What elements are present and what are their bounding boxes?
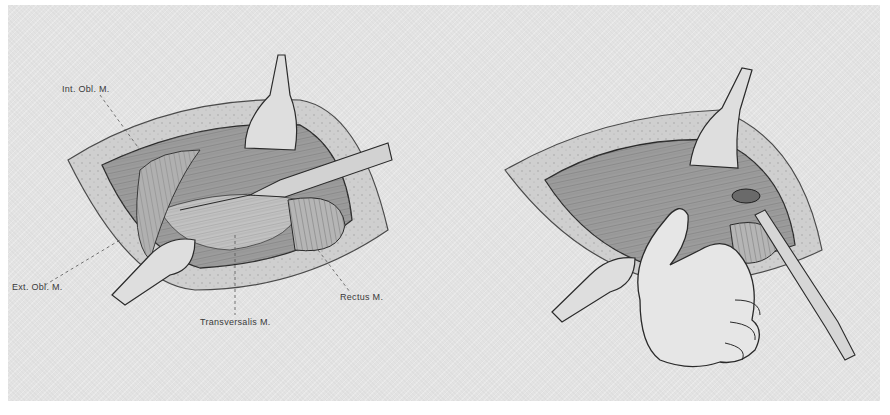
label-ext-obl-m: Ext. Obl. M. — [12, 282, 63, 292]
right-incision — [505, 68, 855, 367]
label-transversalis-m: Transversalis M. — [200, 317, 270, 327]
label-int-obl-m: Int. Obl. M. — [62, 84, 110, 94]
surgical-illustration — [0, 0, 890, 415]
label-rectus-m: Rectus M. — [340, 292, 383, 302]
left-incision — [68, 55, 392, 305]
